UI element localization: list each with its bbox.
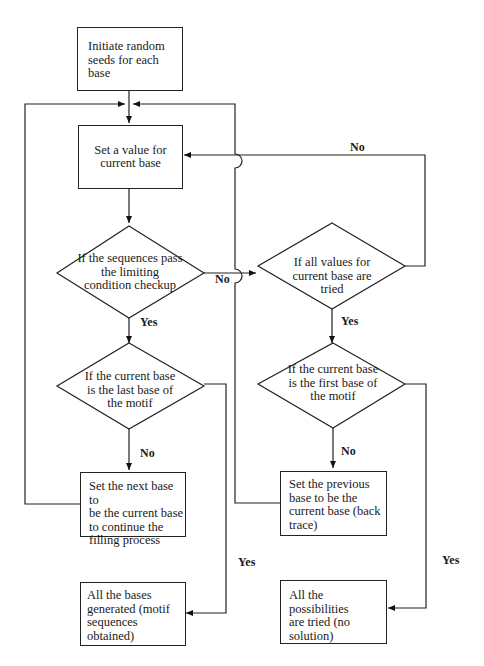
node-text-line: If all values for xyxy=(270,256,394,270)
node-text-line: to continue the xyxy=(89,521,185,535)
decision-text-all-values-tried: If all values for current base are tried xyxy=(270,256,394,297)
node-text-line: the motif xyxy=(270,390,396,404)
process-initiate: Initiate random seeds for each base xyxy=(77,27,183,91)
edge-label-yes-all-tried: Yes xyxy=(341,314,358,329)
node-text-line: If the sequences pass xyxy=(64,252,196,266)
process-set-value: Set a value for current base xyxy=(78,125,183,189)
edge-first-yes xyxy=(388,384,426,608)
node-text-line: current base xyxy=(100,157,161,171)
node-text-line: tried xyxy=(270,283,394,297)
node-text-line: Set the previous xyxy=(289,478,386,492)
node-text-line: All the possibilities xyxy=(289,589,386,616)
edge-label-yes-last: Yes xyxy=(238,555,255,570)
node-text-line: sequences xyxy=(87,616,185,630)
decision-text-is-last-base: If the current base is the last base of … xyxy=(66,370,194,411)
node-text-line: Set a value for xyxy=(94,144,167,158)
node-text-line: seeds for each xyxy=(88,54,182,68)
decision-text-check-limit: If the sequences pass the limiting condi… xyxy=(64,252,196,293)
node-text-line: If the current base xyxy=(270,363,396,377)
edge-label-yes-first: Yes xyxy=(442,553,459,568)
edge-last-yes xyxy=(186,384,226,613)
process-set-next: Set the next base to be the current base… xyxy=(80,472,186,537)
decision-text-is-first-base: If the current base is the first base of… xyxy=(270,363,396,404)
node-text-line: base to be the xyxy=(289,492,386,506)
edge-label-no-check: No xyxy=(215,272,230,287)
terminal-no-solution: All the possibilities are tried (no solu… xyxy=(280,580,387,644)
node-text-line: base xyxy=(88,67,182,81)
node-text-line: the limiting xyxy=(64,266,196,280)
node-text-line: is the last base of xyxy=(66,384,194,398)
node-text-line: solution) xyxy=(289,630,386,644)
node-text-line: is the first base of xyxy=(270,377,396,391)
node-text-line: Initiate random xyxy=(88,40,182,54)
node-text-line: trace) xyxy=(289,519,386,533)
edge-label-no-top: No xyxy=(350,140,365,155)
node-text-line: All the bases xyxy=(87,589,185,603)
node-text-line: condition checkup xyxy=(64,279,196,293)
node-text-line: current base are xyxy=(270,270,394,284)
edge-label-yes-check: Yes xyxy=(140,315,157,330)
process-set-previous: Set the previous base to be the current … xyxy=(280,471,387,536)
node-text-line: current base (back xyxy=(289,505,386,519)
node-text-line: generated (motif xyxy=(87,603,185,617)
node-text-line: the motif xyxy=(66,397,194,411)
terminal-all-generated: All the bases generated (motif sequences… xyxy=(80,582,186,646)
node-text-line: filling process xyxy=(89,534,185,548)
edge-label-no-last: No xyxy=(140,446,155,461)
node-text-line: If the current base xyxy=(66,370,194,384)
edge-label-no-first: No xyxy=(341,444,356,459)
node-text-line: be the current base xyxy=(89,507,185,521)
node-text-line: obtained) xyxy=(87,630,185,644)
node-text-line: are tried (no xyxy=(289,616,386,630)
node-text-line: Set the next base to xyxy=(89,480,185,507)
